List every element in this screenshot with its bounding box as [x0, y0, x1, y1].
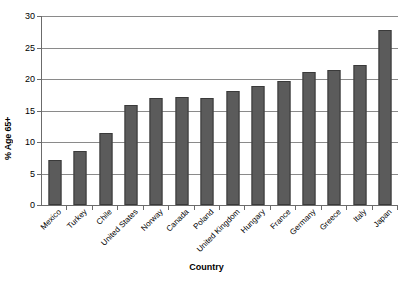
bar-slot	[296, 16, 321, 205]
bar	[99, 133, 112, 205]
bar-slot	[144, 16, 169, 205]
y-axis-tick-label: 30	[14, 12, 38, 21]
x-axis-tick	[194, 206, 195, 210]
x-axis-tick	[295, 206, 296, 210]
bar	[201, 98, 214, 205]
y-axis-tick	[37, 111, 41, 112]
y-axis-tick	[37, 48, 41, 49]
x-axis-category-label: Japan	[373, 208, 394, 229]
y-axis-tick-labels: 051015202530	[14, 0, 38, 288]
bar-slot	[322, 16, 347, 205]
y-axis-tick	[37, 205, 41, 206]
plot-area	[41, 16, 398, 206]
bar-slot	[195, 16, 220, 205]
bar-slot	[220, 16, 245, 205]
x-axis-category-label: Canada	[165, 208, 190, 233]
bar-slot	[67, 16, 92, 205]
bar-slot	[347, 16, 372, 205]
y-axis-tick-label: 10	[14, 138, 38, 147]
x-axis-tick	[117, 206, 118, 210]
bar	[328, 70, 341, 205]
bar-slot	[271, 16, 296, 205]
bar	[124, 105, 137, 205]
bar-slot	[93, 16, 118, 205]
bar	[74, 151, 87, 205]
bar	[302, 72, 315, 205]
bar-slot	[118, 16, 143, 205]
bar	[150, 98, 163, 205]
x-axis-tick	[92, 206, 93, 210]
x-axis-category-label: Hungary	[240, 208, 267, 235]
y-axis-tick-label: 15	[14, 106, 38, 115]
x-axis-tick	[397, 206, 398, 210]
x-axis-category-label: Mexico	[40, 208, 64, 232]
bar-chart: % Age 65+ 051015202530 MexicoTurkeyChile…	[0, 0, 413, 288]
x-axis-category-label: Italy	[352, 208, 368, 224]
bar-slot	[373, 16, 398, 205]
x-axis-tick	[346, 206, 347, 210]
bars-layer	[42, 16, 398, 205]
x-axis-category-label: Poland	[193, 208, 216, 231]
x-axis-category-label: Norway	[140, 208, 165, 233]
y-axis-tick-label: 25	[14, 43, 38, 52]
x-axis-tick	[321, 206, 322, 210]
x-axis-tick	[372, 206, 373, 210]
bar-slot	[169, 16, 194, 205]
x-axis-tick	[270, 206, 271, 210]
x-axis-category-label: Germany	[289, 208, 318, 237]
x-axis-tick	[219, 206, 220, 210]
bar	[226, 91, 239, 205]
x-axis-tick	[168, 206, 169, 210]
y-axis-tick	[37, 16, 41, 17]
x-axis-category-labels: MexicoTurkeyChileUnited StatesNorwayCana…	[41, 205, 397, 265]
y-axis-tick-label: 20	[14, 75, 38, 84]
y-axis-tick	[37, 174, 41, 175]
x-axis-title: Country	[0, 262, 413, 272]
x-axis-tick	[66, 206, 67, 210]
x-axis-tick	[244, 206, 245, 210]
x-axis-tick	[143, 206, 144, 210]
y-axis-tick	[37, 142, 41, 143]
y-axis-tick-label: 0	[14, 201, 38, 210]
bar-slot	[42, 16, 67, 205]
bar	[277, 81, 290, 205]
y-axis-tick-label: 5	[14, 169, 38, 178]
bar	[379, 30, 392, 205]
bar	[353, 65, 366, 205]
bar	[252, 86, 265, 205]
x-axis-category-label: Greece	[319, 208, 343, 232]
bar	[48, 160, 61, 205]
x-axis-category-label: Turkey	[66, 208, 89, 231]
bar	[175, 97, 188, 205]
x-axis-category-label: Chile	[96, 208, 115, 227]
x-axis-category-label: France	[269, 208, 292, 231]
bar-slot	[245, 16, 270, 205]
y-axis-tick	[37, 79, 41, 80]
